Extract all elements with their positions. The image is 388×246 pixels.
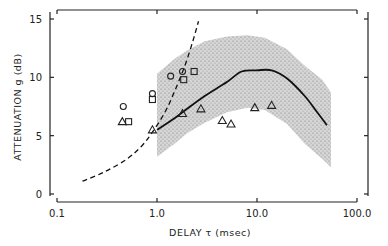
square-marker [149,97,155,103]
triangle-marker [218,117,226,124]
x-tick-label: 0.1 [49,208,65,219]
y-tick-label: 0 [36,189,42,200]
x-tick-label: 1.0 [149,208,165,219]
y-axis-label: ATTENUATION g (dB) [12,53,23,160]
y-tick-label: 5 [36,131,42,142]
y-tick-label: 15 [29,14,42,25]
triangle-marker [227,120,235,127]
attenuation-delay-chart: 0510150.11.010.0100.0 DELAY τ (msec) ATT… [0,0,388,246]
circle-marker [149,91,155,97]
square-marker [126,119,132,125]
circle-marker [120,104,126,110]
shaded-band [157,35,331,167]
x-tick-label: 10.0 [246,208,268,219]
y-tick-label: 10 [29,72,42,83]
x-tick-label: 100.0 [343,208,372,219]
x-axis-label: DELAY τ (msec) [169,227,251,238]
